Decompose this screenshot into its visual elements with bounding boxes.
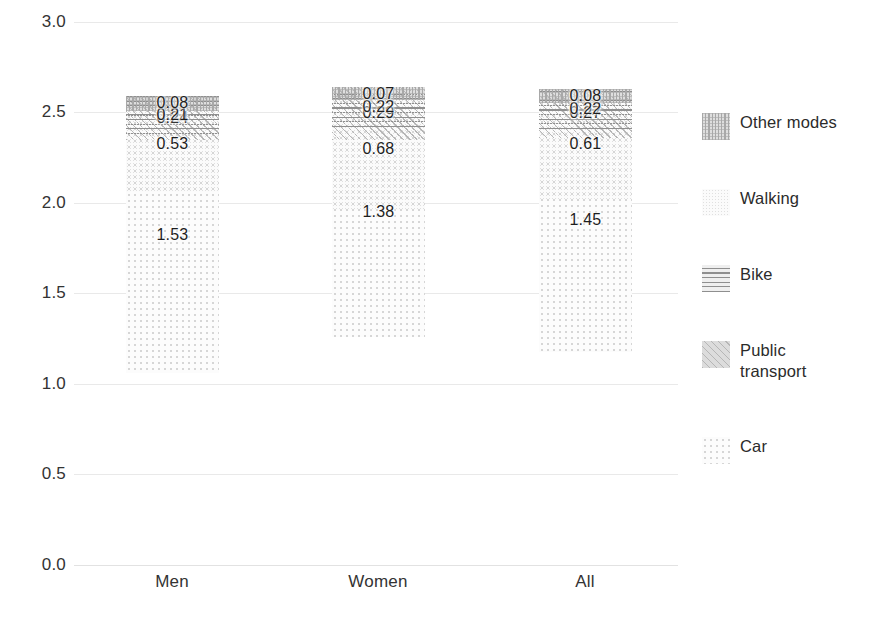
y-axis-tick-0-0: 0.0 — [18, 555, 66, 575]
bike-swatch-icon — [702, 265, 730, 292]
x-axis-tick-all: All — [505, 572, 665, 592]
legend-item-bike[interactable]: Bike — [702, 264, 773, 292]
segment-value-label: 1.45 — [570, 211, 602, 229]
legend-label-car: Car — [740, 436, 767, 457]
gridline-0-0 — [74, 565, 678, 566]
legend-item-walking[interactable]: Walking — [702, 188, 799, 216]
legend-label-walking: Walking — [740, 188, 799, 209]
other-modes-swatch-icon — [702, 113, 730, 140]
y-axis-tick-2-5: 2.5 — [18, 102, 66, 122]
legend-label-public-transport: Public transport — [740, 340, 806, 382]
segment-value-label: 0.07 — [363, 85, 395, 103]
y-axis-tick-1-5: 1.5 — [18, 283, 66, 303]
walking-swatch-icon — [702, 189, 730, 216]
y-axis-tick-3-0: 3.0 — [18, 12, 66, 32]
car-swatch-icon — [702, 437, 730, 464]
y-axis-tick-2-0: 2.0 — [18, 193, 66, 213]
legend-item-public-transport[interactable]: Public transport — [702, 340, 806, 382]
y-axis-tick-0-5: 0.5 — [18, 464, 66, 484]
gridline-3-0 — [74, 22, 678, 23]
bar-women[interactable]: 1.38 0.29 0.22 0.68 0.07 — [332, 87, 425, 565]
bar-men[interactable]: 1.53 0.24 0.21 0.53 0.08 — [126, 96, 219, 565]
legend-label-bike: Bike — [740, 264, 773, 285]
segment-value-label: 0.68 — [363, 140, 395, 158]
bar-segment-all-other-modes[interactable]: 0.08 — [539, 89, 632, 104]
y-axis-tick-1-0: 1.0 — [18, 374, 66, 394]
bar-segment-men-other-modes[interactable]: 0.08 — [126, 96, 219, 111]
legend-item-car[interactable]: Car — [702, 436, 767, 464]
segment-value-label: 0.08 — [570, 87, 602, 105]
segment-value-label: 0.53 — [157, 135, 189, 153]
legend-label-other-modes: Other modes — [740, 112, 837, 133]
bar-segment-women-other-modes[interactable]: 0.07 — [332, 87, 425, 100]
segment-value-label: 0.61 — [570, 135, 602, 153]
segment-value-label: 0.08 — [157, 94, 189, 112]
stacked-bar-chart: 3.0 2.5 2.0 1.5 1.0 0.5 0.0 1.53 0.24 0.… — [0, 0, 876, 617]
bar-all[interactable]: 1.45 0.27 0.22 0.61 0.08 — [539, 89, 632, 565]
public-transport-swatch-icon — [702, 341, 730, 368]
plot-area: 1.53 0.24 0.21 0.53 0.08 1.38 — [74, 22, 678, 565]
x-axis-tick-men: Men — [92, 572, 252, 592]
segment-value-label: 1.53 — [157, 226, 189, 244]
x-axis-tick-women: Women — [298, 572, 458, 592]
segment-value-label: 1.38 — [363, 203, 395, 221]
legend-item-other-modes[interactable]: Other modes — [702, 112, 837, 140]
